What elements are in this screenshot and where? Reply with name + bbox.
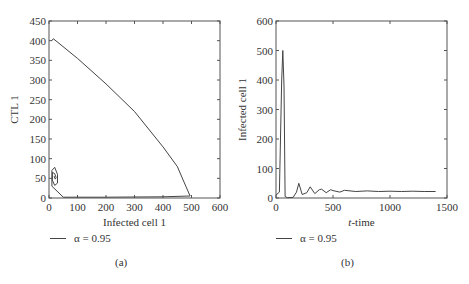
y-tick-label: 500	[257, 45, 274, 57]
x-tick-label: 0	[46, 201, 52, 213]
series-line	[52, 39, 190, 198]
x-tick-label: 100	[69, 201, 86, 213]
chart-b-time-series: 0100200300400500600050010001500t-timeInf…	[235, 0, 469, 284]
x-axis-label: Infected cell 1	[103, 216, 166, 228]
x-tick-label: 500	[325, 201, 342, 213]
caption-a: (a)	[115, 256, 127, 268]
legend-label-a: α = 0.95	[74, 232, 111, 244]
y-tick-label: 150	[30, 133, 47, 145]
y-tick-label: 300	[257, 104, 274, 116]
x-tick-label: 500	[183, 201, 200, 213]
plot-frame	[276, 21, 447, 198]
x-tick-label: 600	[212, 201, 229, 213]
x-tick-label: 1000	[379, 201, 402, 213]
legend-line-swatch	[276, 238, 292, 239]
x-tick-label: 200	[98, 201, 115, 213]
y-tick-label: 400	[257, 74, 274, 86]
x-tick-label: 1500	[436, 201, 459, 213]
x-tick-label: 400	[155, 201, 172, 213]
y-tick-label: 50	[35, 172, 47, 184]
y-tick-label: 100	[30, 153, 47, 165]
chart-a-phase-portrait: 0501001502002503003504004500100200300400…	[0, 0, 235, 284]
y-tick-label: 200	[257, 133, 274, 145]
y-tick-label: 100	[257, 163, 274, 175]
x-tick-label: 0	[273, 201, 279, 213]
x-axis-label: t-time	[348, 216, 374, 228]
y-axis-label: CTL 1	[8, 95, 20, 124]
y-tick-label: 300	[30, 74, 47, 86]
y-tick-label: 250	[30, 94, 47, 106]
y-tick-label: 200	[30, 113, 47, 125]
x-tick-label: 300	[126, 201, 143, 213]
y-tick-label: 400	[30, 35, 47, 47]
y-axis-label: Infected cell 1	[236, 78, 248, 141]
plot-frame	[49, 21, 220, 198]
legend-line-swatch	[50, 238, 66, 239]
legend-label-b: α = 0.95	[300, 232, 337, 244]
legend-a: α = 0.95	[50, 232, 111, 244]
series-line	[276, 51, 436, 198]
y-tick-label: 350	[30, 54, 47, 66]
y-tick-label: 450	[30, 15, 47, 27]
legend-b: α = 0.95	[276, 232, 337, 244]
y-tick-label: 600	[257, 15, 274, 27]
caption-b: (b)	[341, 256, 354, 268]
